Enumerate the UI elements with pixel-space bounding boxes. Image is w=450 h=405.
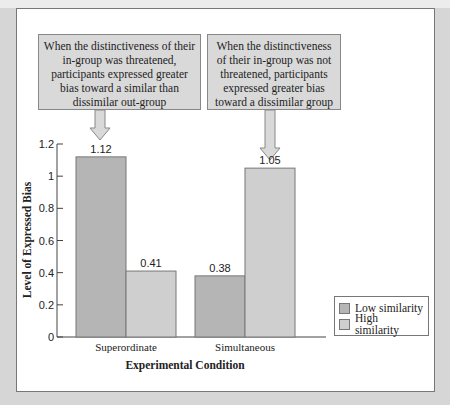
y-tick-label: 1.2: [39, 138, 54, 150]
data-label: 1.05: [259, 154, 280, 166]
bar-chart: 00.20.40.60.811.2 1.120.41Superordinate0…: [0, 0, 450, 405]
callout-arrow-superordinate: [90, 110, 110, 140]
bar-superordinate-low-similarity: [76, 157, 126, 337]
legend-item-high-similarity: High similarity: [339, 316, 424, 332]
y-tick-label: 0.4: [39, 267, 54, 279]
bar-superordinate-high-similarity: [126, 271, 176, 337]
data-label: 1.12: [90, 143, 111, 155]
x-tick-label: Simultaneous: [215, 341, 275, 353]
data-label: 0.41: [140, 257, 161, 269]
x-tick-label: Superordinate: [95, 341, 157, 353]
y-tick-label: 0.8: [39, 202, 54, 214]
data-label: 0.38: [209, 262, 230, 274]
bar-simultaneous-low-similarity: [195, 276, 245, 337]
legend-swatch-low-similarity: [339, 303, 350, 314]
legend-swatch-high-similarity: [339, 319, 350, 330]
y-tick-label: 0: [48, 331, 54, 343]
y-tick-label: 1: [48, 170, 54, 182]
bar-simultaneous-high-similarity: [245, 168, 295, 337]
y-axis-title: Level of Expressed Bias: [21, 181, 34, 298]
callout-arrow-simultaneous: [260, 110, 280, 160]
y-tick-label: 0.2: [39, 299, 54, 311]
x-axis-title: Experimental Condition: [125, 359, 245, 372]
legend: Low similarity High similarity: [334, 296, 429, 336]
y-tick-label: 0.6: [39, 235, 54, 247]
legend-label-high-similarity: High similarity: [355, 312, 424, 336]
